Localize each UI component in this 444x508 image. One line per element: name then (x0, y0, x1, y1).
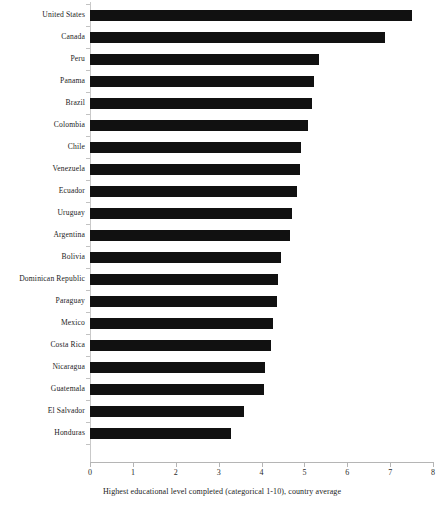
bar-row: Guatemala (0, 378, 444, 400)
bar-category-label: Paraguay (56, 290, 85, 312)
bar-row: El Salvador (0, 400, 444, 422)
y-axis-tick (86, 378, 90, 379)
bar (90, 384, 264, 395)
bar-category-label: El Salvador (48, 400, 85, 422)
bar (90, 76, 314, 87)
bar-row: Nicaragua (0, 356, 444, 378)
bar (90, 208, 292, 219)
bar-row: Colombia (0, 114, 444, 136)
bar-category-label: Mexico (61, 312, 85, 334)
bar (90, 120, 308, 131)
y-axis-tick (86, 92, 90, 93)
bar-chart: United StatesCanadaPeruPanamaBrazilColom… (0, 0, 444, 508)
bar-track (90, 246, 434, 268)
y-axis-tick (86, 444, 90, 445)
bar-category-label: Uruguay (57, 202, 85, 224)
y-axis-tick (86, 246, 90, 247)
bar (90, 252, 281, 263)
bar-category-label: Panama (60, 70, 85, 92)
bar-track (90, 290, 434, 312)
bar-category-label: Colombia (54, 114, 85, 136)
bar-category-label: Venezuela (52, 158, 85, 180)
bar-track (90, 136, 434, 158)
y-axis-tick (86, 422, 90, 423)
bar-row: Uruguay (0, 202, 444, 224)
bar (90, 428, 231, 439)
y-axis-tick (86, 290, 90, 291)
bar-category-label: United States (42, 4, 85, 26)
bar-category-label: Brazil (66, 92, 85, 114)
x-axis-tick-label: 5 (289, 468, 319, 477)
bar (90, 186, 297, 197)
bar-track (90, 422, 434, 444)
x-axis-tick (90, 462, 91, 467)
bar (90, 54, 319, 65)
bar (90, 362, 265, 373)
bar-category-label: Ecuador (59, 180, 85, 202)
bar (90, 318, 273, 329)
y-axis-tick (86, 180, 90, 181)
bar-row: Canada (0, 26, 444, 48)
x-axis-tick (390, 462, 391, 467)
bar-track (90, 158, 434, 180)
x-axis-tick-label: 0 (75, 468, 105, 477)
y-axis-tick (86, 114, 90, 115)
y-axis-tick (86, 70, 90, 71)
bar-track (90, 70, 434, 92)
bar-track (90, 4, 434, 26)
bar-row: Panama (0, 70, 444, 92)
bar (90, 406, 244, 417)
bar-row: Costa Rica (0, 334, 444, 356)
y-axis-tick (86, 400, 90, 401)
bar-row: Peru (0, 48, 444, 70)
x-axis-tick (176, 462, 177, 467)
bar-category-label: Costa Rica (50, 334, 85, 356)
bar (90, 10, 412, 21)
bar-track (90, 378, 434, 400)
y-axis-tick (86, 158, 90, 159)
x-axis-tick (262, 462, 263, 467)
y-axis-tick (86, 26, 90, 27)
bar-row: Paraguay (0, 290, 444, 312)
bar-track (90, 202, 434, 224)
bar (90, 164, 300, 175)
bar-row: Brazil (0, 92, 444, 114)
bar-category-label: Peru (70, 48, 85, 70)
y-axis-tick (86, 48, 90, 49)
y-axis-tick (86, 268, 90, 269)
bar-track (90, 92, 434, 114)
x-axis-tick-label: 7 (375, 468, 405, 477)
bar (90, 340, 271, 351)
bar (90, 274, 278, 285)
bar (90, 32, 385, 43)
y-axis-tick (86, 312, 90, 313)
bar-row: Mexico (0, 312, 444, 334)
y-axis-tick (86, 356, 90, 357)
bar-track (90, 48, 434, 70)
bar-row: Argentina (0, 224, 444, 246)
x-axis-tick-label: 3 (204, 468, 234, 477)
plot-area: United StatesCanadaPeruPanamaBrazilColom… (0, 0, 444, 462)
bar (90, 230, 290, 241)
x-axis-tick (433, 462, 434, 467)
bar-track (90, 26, 434, 48)
y-axis-tick (86, 136, 90, 137)
bar-track (90, 356, 434, 378)
bar-track (90, 224, 434, 246)
bar (90, 142, 301, 153)
x-axis-tick (304, 462, 305, 467)
x-axis-tick-label: 6 (332, 468, 362, 477)
bar-category-label: Guatemala (51, 378, 85, 400)
x-axis-tick-label: 8 (418, 468, 444, 477)
bar-row: United States (0, 4, 444, 26)
x-axis-tick (347, 462, 348, 467)
bar-category-label: Nicaragua (52, 356, 85, 378)
x-axis-tick (219, 462, 220, 467)
x-axis-label: Highest educational level completed (cat… (0, 487, 444, 496)
bar-row: Dominican Republic (0, 268, 444, 290)
bar-track (90, 312, 434, 334)
y-axis-tick (86, 334, 90, 335)
x-axis-tick-label: 4 (247, 468, 277, 477)
bar-category-label: Argentina (53, 224, 85, 246)
bar-row: Honduras (0, 422, 444, 444)
